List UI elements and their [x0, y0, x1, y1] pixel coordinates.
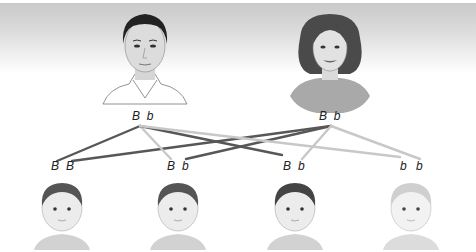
child3-allele-1: B — [283, 159, 291, 173]
child3-allele-2: b — [298, 159, 305, 173]
child4-allele-1: b — [400, 159, 407, 173]
child2-allele-1: B — [167, 159, 175, 173]
child1-allele-1: B — [51, 159, 59, 173]
baby-1 — [32, 176, 92, 252]
child4-allele-2: b — [416, 159, 423, 173]
line-father-child1 — [57, 126, 140, 161]
child2-allele-2: b — [182, 159, 189, 173]
child1-allele-2: B — [66, 159, 74, 173]
baby-3 — [265, 176, 325, 252]
baby-2 — [148, 176, 208, 252]
baby-4 — [381, 176, 441, 252]
